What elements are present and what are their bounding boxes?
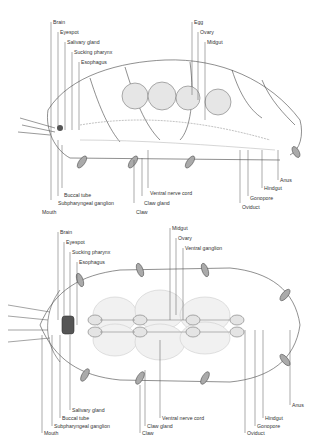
label-brain: Brain	[60, 229, 72, 235]
label-gonopore: Gonopore	[257, 423, 280, 429]
label-brain: Brain	[53, 19, 65, 25]
label-esophagus: Esophagus	[79, 259, 105, 265]
label-buccal-tube: Buccal tube	[64, 192, 91, 198]
label-mouth: Mouth	[42, 209, 56, 215]
dorsal-view-figure: Brain Eyespot Sucking pharynx Esophagus …	[0, 220, 321, 440]
label-claw: Claw	[142, 430, 154, 436]
label-midgut: Midgut	[172, 225, 188, 231]
label-ventral-nerve-cord: Ventral nerve cord	[162, 415, 204, 421]
label-oviduct: Oviduct	[242, 204, 260, 210]
label-sucking-pharynx: Sucking pharynx	[74, 49, 112, 55]
label-esophagus: Esophagus	[81, 59, 107, 65]
label-salivary-gland: Salivary gland	[67, 39, 100, 45]
label-mouth: Mouth	[44, 430, 58, 436]
label-subpharyngeal-ganglion: Subpharyngeal ganglion	[58, 200, 114, 206]
label-hindgut: Hindgut	[264, 185, 282, 191]
label-ventral-ganglion: Ventral ganglion	[185, 245, 222, 251]
label-oviduct: Oviduct	[247, 430, 265, 436]
label-ventral-nerve-cord: Ventral nerve cord	[150, 190, 192, 196]
label-ovary: Ovary	[200, 29, 214, 35]
label-hindgut: Hindgut	[265, 415, 283, 421]
label-gonopore: Gonopore	[250, 195, 273, 201]
label-salivary-gland: Salivary gland	[72, 407, 105, 413]
label-claw-gland: Claw gland	[147, 423, 173, 429]
label-egg: Egg	[194, 19, 203, 25]
label-eyespot: Eyespot	[60, 29, 79, 35]
label-subpharyngeal-ganglion: Subpharyngeal ganglion	[54, 423, 110, 429]
label-ovary: Ovary	[178, 235, 192, 241]
label-anus: Anus	[280, 177, 292, 183]
label-claw: Claw	[136, 209, 148, 215]
label-midgut: Midgut	[207, 39, 223, 45]
lateral-view-figure: Brain Eyespot Salivary gland Sucking pha…	[0, 0, 321, 220]
label-claw-gland: Claw gland	[144, 200, 170, 206]
label-anus: Anus	[292, 402, 304, 408]
dorsal-view-drawing	[0, 220, 321, 440]
label-sucking-pharynx: Sucking pharynx	[72, 249, 110, 255]
label-buccal-tube: Buccal tube	[62, 415, 89, 421]
label-eyespot: Eyespot	[66, 239, 85, 245]
